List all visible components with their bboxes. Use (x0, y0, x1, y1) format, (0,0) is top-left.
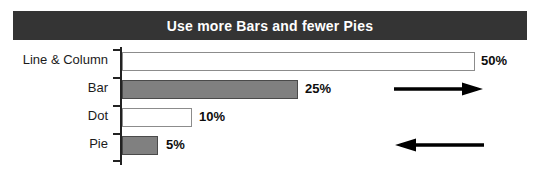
category-label-bar: Bar (0, 80, 108, 95)
axis-tick-icon (113, 105, 121, 107)
chart-row-bar: Bar 25% (0, 77, 541, 104)
value-label-line-and-column: 50% (481, 53, 507, 68)
axis-tick-bottom (113, 160, 121, 162)
axis-tick-icon (113, 49, 121, 51)
arrow-right-icon (394, 81, 484, 97)
bar-dot (122, 108, 192, 127)
axis-tick-icon (113, 77, 121, 79)
category-label-line-and-column: Line & Column (0, 52, 108, 67)
axis-tick-icon (113, 133, 121, 135)
bar-chart: Line & Column 50% Bar 25% Dot 10% Pie 5% (0, 44, 541, 172)
bar-pie (122, 136, 158, 155)
value-label-bar: 25% (305, 81, 331, 96)
value-label-pie: 5% (166, 137, 185, 152)
page-title: Use more Bars and fewer Pies (167, 18, 373, 34)
value-label-dot: 10% (199, 109, 225, 124)
arrow-left-icon (394, 137, 484, 153)
bar-line-and-column (122, 52, 475, 71)
chart-row-line-and-column: Line & Column 50% (0, 49, 541, 76)
chart-row-dot: Dot 10% (0, 105, 541, 132)
bar-bar (122, 80, 298, 99)
category-label-dot: Dot (0, 108, 108, 123)
chart-title-banner: Use more Bars and fewer Pies (13, 11, 527, 40)
chart-row-pie: Pie 5% (0, 133, 541, 160)
category-label-pie: Pie (0, 136, 108, 151)
